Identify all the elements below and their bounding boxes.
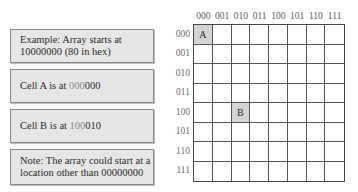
grid-cell [213,25,232,45]
note-cell-a-address: Cell A is at 000000 [10,69,154,103]
grid-cell [325,162,344,182]
grid-cell [213,142,232,162]
grid-cell [213,64,232,84]
grid-cell [269,45,288,65]
row-label: 000 [168,29,190,39]
grid-cell [307,25,326,45]
column-labels: 000001010011100101110111 [193,11,345,23]
column-label: 010 [232,11,251,21]
grid-cell [213,84,232,104]
grid-cell [307,45,326,65]
grid-cell-a: A [194,25,213,45]
note-text: Cell A is at 000000 [20,80,101,93]
grid-cell [325,45,344,65]
grid-cell [250,25,269,45]
grid-cell [325,142,344,162]
row-label: 110 [168,146,190,156]
grid-cell [307,162,326,182]
grid-cell [288,162,307,182]
note-text: Note: The array could start at a locatio… [20,155,153,180]
grid-cell [288,25,307,45]
grid-cell [250,142,269,162]
grid-cell [232,84,251,104]
grid-cell [269,123,288,143]
grid-cell [194,84,213,104]
grid-cell [269,64,288,84]
grid-cell [194,103,213,123]
grid-cell [232,45,251,65]
grid-cell [269,84,288,104]
memory-grid: AB [193,24,345,182]
grid-cell [250,162,269,182]
grid-cell [269,162,288,182]
note-text-part: Cell B is at [20,120,70,131]
grid-cell [307,64,326,84]
note-text-part: Example: Array starts at 10000000 (80 in… [20,34,122,58]
grid-cell [250,45,269,65]
grid-cell [250,84,269,104]
grid-cell [288,103,307,123]
grid-cell [232,64,251,84]
row-label: 111 [168,165,190,175]
grid-cell [213,123,232,143]
grid-cell [250,103,269,123]
note-array-start: Example: Array starts at 10000000 (80 in… [10,29,154,63]
grid-cell [325,25,344,45]
grid-cell [194,64,213,84]
note-text: Example: Array starts at 10000000 (80 in… [20,34,153,59]
row-label: 100 [168,107,190,117]
grid-cell [194,123,213,143]
note-text-part: Cell A is at [20,80,69,91]
grid-cell [325,64,344,84]
grid-cell [232,162,251,182]
grid-cell [232,123,251,143]
grid-cell [232,142,251,162]
grid-cell [325,103,344,123]
column-label: 101 [288,11,307,21]
row-bits: 000 [69,80,85,91]
grid-cell [269,142,288,162]
column-label: 110 [307,11,326,21]
grid-cell [288,84,307,104]
grid-cell [307,103,326,123]
note-text: Cell B is at 100010 [20,120,101,133]
grid-cell [307,84,326,104]
grid-cell [288,64,307,84]
note-cell-b-address: Cell B is at 100010 [10,109,154,143]
note-text-part: 010 [85,120,101,131]
grid-cell [213,45,232,65]
grid-cell [213,162,232,182]
grid-cell-b: B [232,103,251,123]
grid-cell [250,64,269,84]
row-bits: 100 [70,120,86,131]
row-label: 101 [168,126,190,136]
grid-cell [232,25,251,45]
grid-cell [213,103,232,123]
grid-cell [194,45,213,65]
note-text-part: Note: The array could start at a locatio… [20,155,150,179]
column-label: 111 [325,11,344,21]
grid-cell [288,123,307,143]
column-label: 001 [213,11,232,21]
grid-cell [269,25,288,45]
grid-cell [269,103,288,123]
note-start-location: Note: The array could start at a locatio… [10,149,154,185]
grid-cell [288,45,307,65]
row-label: 001 [168,48,190,58]
row-label: 010 [168,68,190,78]
grid-cell [288,142,307,162]
row-label: 011 [168,87,190,97]
note-text-part: 000 [85,80,101,91]
grid-cell [194,162,213,182]
grid-cell [250,123,269,143]
grid-cell [307,142,326,162]
grid-cell [307,123,326,143]
grid-cell [194,142,213,162]
column-label: 000 [194,11,213,21]
grid-cell [325,84,344,104]
grid-cell [325,123,344,143]
column-label: 100 [269,11,288,21]
row-labels: 000001010011100101110111 [168,24,190,182]
column-label: 011 [250,11,269,21]
